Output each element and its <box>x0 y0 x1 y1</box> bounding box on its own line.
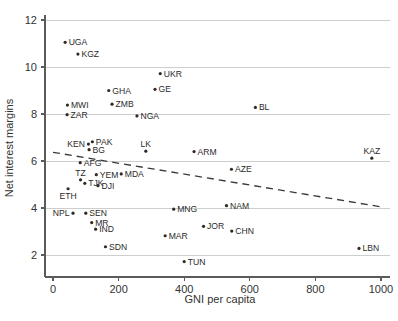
data-point <box>64 41 67 44</box>
data-point-label: LK <box>141 139 152 149</box>
data-point <box>159 72 162 75</box>
data-point <box>87 142 90 145</box>
data-point <box>83 182 86 185</box>
data-point <box>84 212 87 215</box>
data-point <box>120 172 123 175</box>
scatter-plot-figure: UGAKGZUKRGEGHAZMBMWIBLZARNGAPAKKENBGARML… <box>0 0 398 321</box>
data-point <box>254 106 257 109</box>
x-tick-label: 0 <box>50 283 56 295</box>
data-point-label: ZAR <box>71 110 88 120</box>
data-point-label: BG <box>93 145 106 155</box>
data-point-label: UKR <box>164 69 182 79</box>
data-point-label: KAZ <box>363 146 380 156</box>
cropped-caption <box>0 312 398 321</box>
data-point-label: MNG <box>177 204 197 214</box>
data-point <box>96 184 99 187</box>
data-point-label: GHA <box>112 86 131 96</box>
data-point-label: MDA <box>125 169 144 179</box>
data-point <box>230 229 233 232</box>
data-point <box>95 173 98 176</box>
data-point-label: ARM <box>198 147 217 157</box>
y-tick-label: 4 <box>31 202 37 214</box>
data-point-label: DJI <box>101 181 114 191</box>
data-point-label: LBN <box>363 243 380 253</box>
data-point <box>107 89 110 92</box>
data-point <box>202 225 205 228</box>
x-tick-label: 800 <box>306 283 324 295</box>
data-point <box>66 103 69 106</box>
data-points-group: UGAKGZUKRGEGHAZMBMWIBLZARNGAPAKKENBGARML… <box>53 37 380 266</box>
data-point <box>90 221 93 224</box>
data-point-label: ETH <box>59 191 76 201</box>
data-point-label: KEN <box>67 139 85 149</box>
data-point <box>153 88 156 91</box>
data-point-label: AFG <box>84 158 102 168</box>
data-point-label: CHN <box>235 226 254 236</box>
data-point <box>183 260 186 263</box>
data-point <box>370 157 373 160</box>
data-point-label: UGA <box>69 37 88 47</box>
data-point-label: TUN <box>188 257 206 267</box>
data-point <box>79 161 82 164</box>
data-point <box>76 52 79 55</box>
data-point-label: NGA <box>140 111 159 121</box>
y-tick-label: 2 <box>31 249 37 261</box>
data-point-label: ZMB <box>116 99 134 109</box>
y-tick-label: 10 <box>25 61 37 73</box>
x-tick-label: 1000 <box>369 283 393 295</box>
plot-canvas: UGAKGZUKRGEGHAZMBMWIBLZARNGAPAKKENBGARML… <box>0 0 398 321</box>
data-point <box>79 178 82 181</box>
data-point <box>357 247 360 250</box>
data-point <box>110 103 113 106</box>
data-point-label: SDN <box>109 242 127 252</box>
data-point-label: KGZ <box>81 49 99 59</box>
data-point-label: BL <box>259 102 270 112</box>
data-point <box>94 228 97 231</box>
data-point <box>144 150 147 153</box>
data-point-label: MAR <box>169 231 188 241</box>
y-axis-title: Net interest margins <box>3 98 15 197</box>
data-point <box>192 150 195 153</box>
data-point-label: GE <box>159 84 172 94</box>
data-point <box>87 148 90 151</box>
data-point <box>91 140 94 143</box>
y-tick-label: 8 <box>31 108 37 120</box>
data-point <box>104 245 107 248</box>
data-point <box>230 168 233 171</box>
data-point <box>164 234 167 237</box>
axis-titles-group: GNI per capita Net interest margins <box>3 98 256 305</box>
data-point-label: AZE <box>235 164 252 174</box>
y-tick-label: 6 <box>31 155 37 167</box>
data-point-label: MWI <box>71 100 89 110</box>
data-point <box>225 204 228 207</box>
y-tick-label: 12 <box>25 14 37 26</box>
data-point-label: JOR <box>207 221 224 231</box>
data-point-label: NPL <box>53 208 70 218</box>
data-point-label: IND <box>99 224 114 234</box>
data-point <box>172 208 175 211</box>
data-point <box>71 212 74 215</box>
x-tick-label: 200 <box>109 283 127 295</box>
data-point-label: TZ <box>75 168 86 178</box>
data-point-label: NAM <box>230 201 249 211</box>
data-point <box>66 113 69 116</box>
x-axis-title: GNI per capita <box>185 293 257 305</box>
data-point <box>135 114 138 117</box>
